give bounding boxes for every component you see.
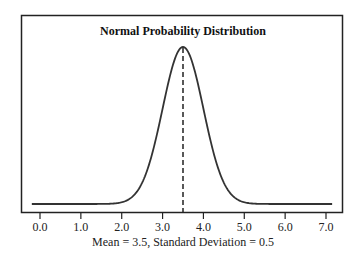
x-tick-label: 3.0 xyxy=(155,220,170,234)
x-tick-label: 5.0 xyxy=(237,220,252,234)
x-tick-label: 4.0 xyxy=(196,220,211,234)
normal-distribution-chart: Normal Probability Distribution 0.01.02.… xyxy=(0,0,360,261)
x-tick-label: 6.0 xyxy=(278,220,293,234)
x-tick-label: 0.0 xyxy=(33,220,48,234)
x-tick-label: 7.0 xyxy=(319,220,334,234)
x-tick-label: 1.0 xyxy=(73,220,88,234)
plot-frame xyxy=(22,16,343,213)
x-axis-label: Mean = 3.5, Standard Deviation = 0.5 xyxy=(92,235,274,249)
x-axis-ticks: 0.01.02.03.04.05.06.07.0 xyxy=(33,213,334,234)
chart-title: Normal Probability Distribution xyxy=(100,24,266,38)
x-tick-label: 2.0 xyxy=(114,220,129,234)
